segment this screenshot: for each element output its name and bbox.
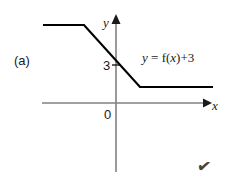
graph-canvas — [0, 0, 229, 181]
x-axis — [42, 99, 212, 108]
y-axis-arrowhead — [112, 14, 121, 24]
equation-rhs: f(x)+3 — [162, 50, 195, 65]
check-mark-icon: ✔ — [196, 157, 212, 176]
x-axis-arrowhead — [203, 99, 212, 108]
equation-label: y = f(x)+3 — [142, 51, 194, 64]
y-tick-label-3: 3 — [103, 59, 110, 72]
figure-panel: (a) y x 3 0 y = f(x)+3 ✔ — [0, 0, 229, 181]
origin-label: 0 — [104, 108, 111, 121]
y-axis-label: y — [103, 16, 109, 29]
x-axis-label: x — [212, 99, 218, 112]
part-label: (a) — [14, 54, 30, 67]
equation-equals: = — [148, 50, 162, 65]
y-axis — [112, 14, 121, 172]
